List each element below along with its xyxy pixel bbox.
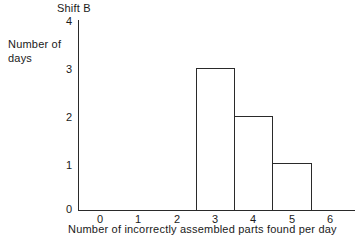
chart-title: Shift B — [57, 3, 91, 14]
y-axis-label-line-2: days — [8, 53, 32, 64]
histogram-chart: Shift B Number of days 4 3 2 1 0 0 1 2 3… — [0, 0, 363, 238]
x-axis-label: Number of incorrectly assembled parts fo… — [68, 224, 337, 235]
y-tick-label-2: 2 — [58, 112, 72, 123]
bar-5 — [272, 163, 312, 211]
y-tick-label-0: 0 — [58, 204, 72, 215]
y-tick-label-3: 3 — [58, 64, 72, 75]
y-tick-label-4: 4 — [58, 16, 72, 27]
bar-4 — [234, 116, 273, 211]
bar-3 — [196, 68, 235, 211]
y-axis-label-line-1: Number of — [8, 39, 61, 50]
y-axis-line — [78, 20, 79, 211]
y-tick-label-1: 1 — [58, 160, 72, 171]
